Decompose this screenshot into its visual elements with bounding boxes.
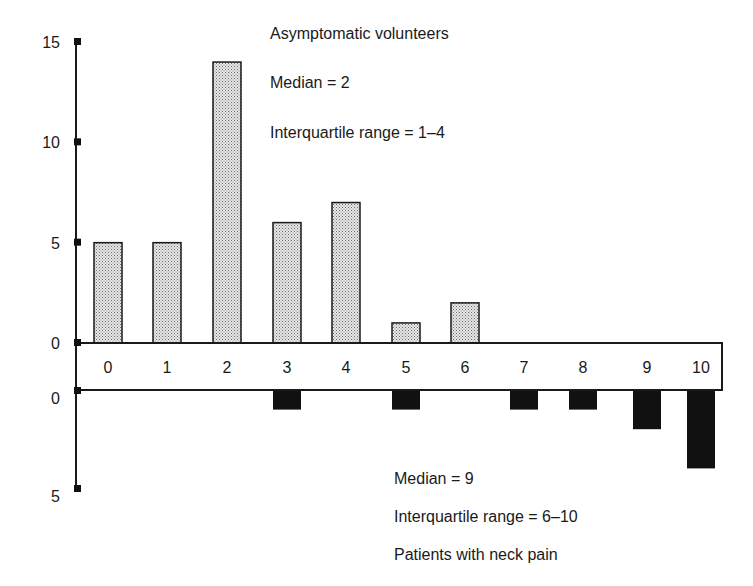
upper-group-label: Asymptomatic volunteers <box>270 25 449 42</box>
bar-upper-2 <box>213 62 241 343</box>
category-label: 3 <box>283 359 292 376</box>
bar-upper-5 <box>392 323 420 343</box>
category-label: 8 <box>579 359 588 376</box>
category-label: 4 <box>342 359 351 376</box>
bar-lower-7 <box>510 390 538 410</box>
lower-group-label: Patients with neck pain <box>394 546 558 563</box>
bar-upper-0 <box>94 243 122 343</box>
tick-mark <box>74 485 81 492</box>
lower-bars-neck-pain <box>273 390 715 468</box>
category-label: 6 <box>461 359 470 376</box>
bar-lower-5 <box>392 390 420 410</box>
tick-mark <box>74 38 81 45</box>
tick-mark <box>74 138 81 145</box>
bar-upper-1 <box>153 243 181 343</box>
tick-label: 0 <box>51 390 60 407</box>
tick-label: 10 <box>42 134 60 151</box>
bar-lower-8 <box>569 390 597 410</box>
tick-label: 0 <box>51 335 60 352</box>
lower-iqr-label: Interquartile range = 6–10 <box>394 508 578 525</box>
bar-upper-6 <box>451 303 479 343</box>
tick-label: 15 <box>42 34 60 51</box>
category-label: 9 <box>643 359 652 376</box>
bar-lower-10 <box>687 390 715 468</box>
bar-lower-3 <box>273 390 301 410</box>
category-label: 1 <box>163 359 172 376</box>
bar-lower-9 <box>633 390 661 429</box>
tick-label: 5 <box>51 488 60 505</box>
bar-upper-3 <box>273 223 301 343</box>
mirrored-bar-chart: 012345678910 151050 05 Asymptomatic volu… <box>0 0 753 586</box>
tick-label: 5 <box>51 235 60 252</box>
category-label: 7 <box>520 359 529 376</box>
bar-upper-4 <box>332 203 360 343</box>
tick-mark <box>74 339 81 346</box>
category-label: 2 <box>223 359 232 376</box>
upper-median-label: Median = 2 <box>270 74 350 91</box>
lower-median-label: Median = 9 <box>394 470 474 487</box>
category-label: 0 <box>104 359 113 376</box>
category-axis-box <box>76 343 722 390</box>
tick-mark <box>74 239 81 246</box>
category-label: 10 <box>692 359 710 376</box>
upper-bars-asymptomatic <box>94 62 479 343</box>
upper-iqr-label: Interquartile range = 1–4 <box>270 124 445 141</box>
tick-mark <box>74 387 81 394</box>
category-label: 5 <box>402 359 411 376</box>
